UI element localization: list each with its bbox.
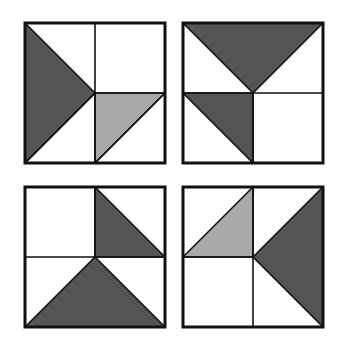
pattern-square-bottom-left (25, 187, 165, 327)
pattern-square-bottom-right (183, 187, 323, 327)
pattern-square-top-right (183, 23, 323, 163)
quilt-pattern-diagram (0, 0, 338, 357)
pattern-square-top-left (25, 23, 165, 163)
